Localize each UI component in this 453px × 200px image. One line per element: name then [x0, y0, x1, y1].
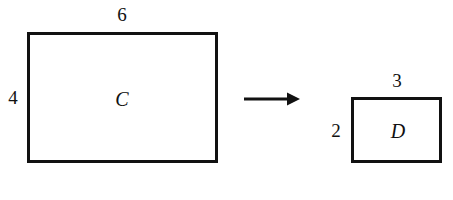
rectangle-d-width-label: 3 — [377, 71, 417, 90]
rectangle-d-name-label: D — [378, 121, 418, 141]
arrow-right-icon — [243, 88, 301, 110]
rectangle-c-width-label: 6 — [102, 5, 142, 24]
rectangle-c-height-label: 4 — [0, 88, 33, 107]
diagram-canvas: 6 4 C 3 2 D — [0, 0, 453, 200]
rectangle-c-name-label: C — [102, 89, 142, 109]
rectangle-d-height-label: 2 — [316, 121, 356, 140]
